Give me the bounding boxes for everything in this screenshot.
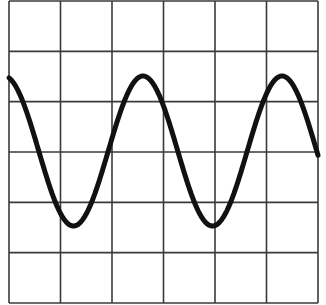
- sine-wave-diagram: [0, 0, 326, 305]
- grid: [9, 1, 318, 303]
